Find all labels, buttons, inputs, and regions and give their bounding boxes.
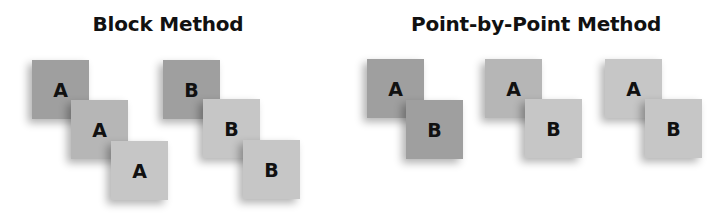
point-square-b3: B — [645, 99, 702, 158]
square-label: A — [132, 160, 147, 182]
square-label: A — [506, 78, 521, 100]
square-label: B — [427, 119, 441, 141]
square-label: B — [546, 118, 560, 140]
square-label: B — [224, 118, 238, 140]
block-square-b3: B — [243, 140, 300, 199]
point-by-point-method-title: Point-by-Point Method — [411, 12, 661, 36]
point-square-b1: B — [406, 100, 463, 159]
point-square-b2: B — [525, 99, 582, 158]
square-label: B — [666, 118, 680, 140]
square-label: A — [626, 78, 641, 100]
square-label: A — [92, 119, 107, 141]
square-label: B — [184, 79, 198, 101]
block-method-title: Block Method — [93, 12, 244, 36]
block-square-a3: A — [111, 141, 168, 200]
square-label: A — [53, 79, 68, 101]
square-label: B — [264, 159, 278, 181]
square-label: A — [388, 78, 403, 100]
